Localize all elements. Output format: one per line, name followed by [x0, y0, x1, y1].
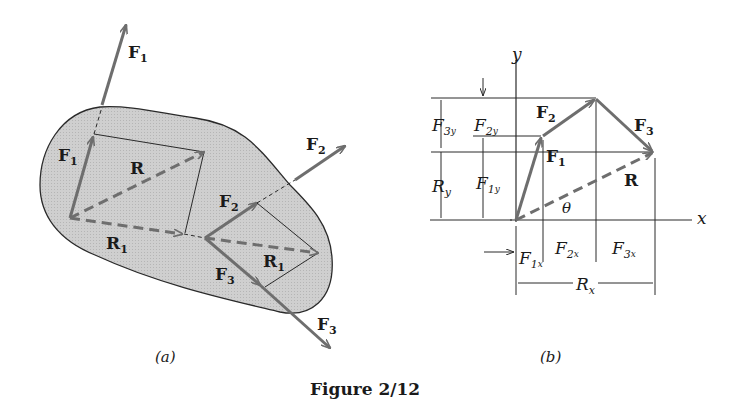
dim-label-F3x: F3x — [612, 240, 636, 257]
dim-label-Ry: Ry — [432, 178, 451, 195]
rigid-body — [40, 107, 332, 313]
dim-label-Rx: Rx — [573, 276, 598, 293]
diagram-canvas — [0, 0, 741, 418]
label-F2-inner: F2 — [219, 193, 239, 210]
panel-a-drawing — [40, 25, 345, 348]
label-R: R — [130, 160, 144, 177]
label-F1-inner: F1 — [58, 147, 78, 164]
dim-label-F3y: F3y — [432, 117, 456, 134]
dim-label-F2x: F2x — [555, 240, 579, 257]
label-F2: F2 — [536, 104, 556, 121]
label-F3: F3 — [634, 117, 654, 134]
label-R1-left: R1 — [106, 235, 128, 252]
label-F1: F1 — [546, 148, 566, 165]
figure-2-12: F1 F1 R R1 F2 F2 R1 F3 F3 y x F2 F3 F1 R… — [0, 0, 741, 418]
label-R: R — [624, 172, 638, 189]
label-theta: θ — [562, 201, 571, 216]
label-F2-outer: F2 — [306, 136, 326, 153]
panel-b-label: (b) — [540, 350, 561, 365]
label-F3-inner: F3 — [215, 266, 235, 283]
panel-b-drawing — [430, 60, 692, 295]
axis-label-y: y — [512, 46, 522, 63]
dim-label-F1y: F1y — [476, 175, 500, 192]
panel-a-label: (a) — [155, 350, 176, 365]
vector-F1 — [516, 138, 541, 220]
label-F3-outer: F3 — [317, 316, 337, 333]
label-F1-outer: F1 — [128, 44, 148, 61]
axis-label-x: x — [697, 210, 707, 227]
figure-caption: Figure 2/12 — [310, 381, 420, 398]
label-R1-right: R1 — [263, 253, 285, 270]
dim-label-F2y: F2y — [474, 117, 498, 134]
dim-label-F1x: F1x — [519, 250, 543, 267]
vector-F1-outer — [102, 25, 126, 105]
